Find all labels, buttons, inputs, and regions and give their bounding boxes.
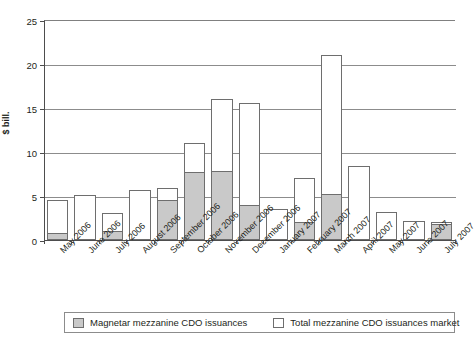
legend-label-total: Total mezzanine CDO issuances market (290, 317, 459, 328)
x-axis-tick (291, 240, 292, 244)
x-axis-tick (208, 240, 209, 244)
x-axis-tick (345, 240, 346, 244)
x-axis-tick (236, 240, 237, 244)
bar-group (376, 20, 397, 240)
x-axis-tick (428, 240, 429, 244)
x-axis-tick (318, 240, 319, 244)
bar-group (102, 20, 123, 240)
x-axis-tick (373, 240, 374, 244)
x-axis-tick (99, 240, 100, 244)
bar-group (348, 20, 369, 240)
bar-group (239, 20, 260, 240)
y-axis-tick-label: 25 (26, 16, 37, 27)
y-axis-tick-label: 5 (32, 192, 37, 203)
y-axis-tick-label: 10 (26, 148, 37, 159)
y-axis-label: $ bill. (1, 93, 11, 153)
bar-group (47, 20, 68, 240)
x-axis-tick (44, 240, 45, 244)
bar-group (129, 20, 150, 240)
white-swatch-icon (273, 318, 284, 328)
bar-group (403, 20, 424, 240)
bar-group (431, 20, 452, 240)
bar-group (321, 20, 342, 240)
x-axis-tick (126, 240, 127, 244)
bars-container (44, 20, 455, 240)
x-axis-tick (400, 240, 401, 244)
x-axis-tick (263, 240, 264, 244)
bar-group (184, 20, 205, 240)
y-axis-tick-label: 0 (32, 236, 37, 247)
bar-group (74, 20, 95, 240)
bar-group (157, 20, 178, 240)
x-axis-tick (455, 240, 456, 244)
legend-item-magnetar: Magnetar mezzanine CDO issuances (73, 317, 247, 328)
legend-item-total: Total mezzanine CDO issuances market (273, 317, 459, 328)
gray-swatch-icon (73, 318, 84, 328)
x-axis-tick (154, 240, 155, 244)
x-axis-tick (181, 240, 182, 244)
legend-label-magnetar: Magnetar mezzanine CDO issuances (90, 317, 247, 328)
y-axis-tick-label: 15 (26, 104, 37, 115)
x-axis-tick (71, 240, 72, 244)
y-axis-tick-label: 20 (26, 60, 37, 71)
chart-legend: Magnetar mezzanine CDO issuances Total m… (64, 312, 455, 333)
